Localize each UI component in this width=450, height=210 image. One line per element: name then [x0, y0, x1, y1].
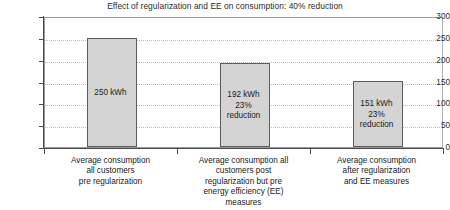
- y-axis-tick-mark: [39, 39, 44, 40]
- y-axis-tick-mark: [39, 17, 44, 18]
- chart-title: Effect of regularization and EE on consu…: [0, 1, 450, 11]
- x-axis-line: [43, 148, 444, 149]
- bar-value-label: 250 kWh: [86, 88, 136, 99]
- y-axis-tick-mark: [39, 126, 44, 127]
- y-axis-tick-label: 150: [416, 78, 450, 86]
- y-axis-tick-mark: [39, 61, 44, 62]
- y-axis-tick-label: 100: [416, 100, 450, 108]
- bar-value-label: 151 kWh 23% reduction: [352, 99, 402, 131]
- bar-chart: Effect of regularization and EE on consu…: [0, 0, 450, 210]
- y-axis-tick-label: 50: [416, 122, 450, 130]
- x-axis-tick-mark: [443, 148, 444, 154]
- x-axis-tick-mark: [177, 148, 178, 154]
- x-axis-category-label: Average consumption after regularization…: [310, 156, 443, 187]
- y-axis-tick-mark: [39, 104, 44, 105]
- y-axis-tick-label: 0: [416, 144, 450, 152]
- x-axis-tick-mark: [310, 148, 311, 154]
- y-axis-tick-label: 300: [416, 13, 450, 21]
- x-axis-category-label: Average consumption all customers pre re…: [44, 156, 177, 187]
- y-axis-tick-label: 250: [416, 35, 450, 43]
- y-axis-tick-label: 200: [416, 57, 450, 65]
- bar-value-label: 192 kWh 23% reduction: [219, 90, 269, 122]
- y-axis-tick-mark: [39, 83, 44, 84]
- x-axis-category-label: Average consumption all customers post r…: [177, 156, 310, 208]
- x-axis-tick-mark: [44, 148, 45, 154]
